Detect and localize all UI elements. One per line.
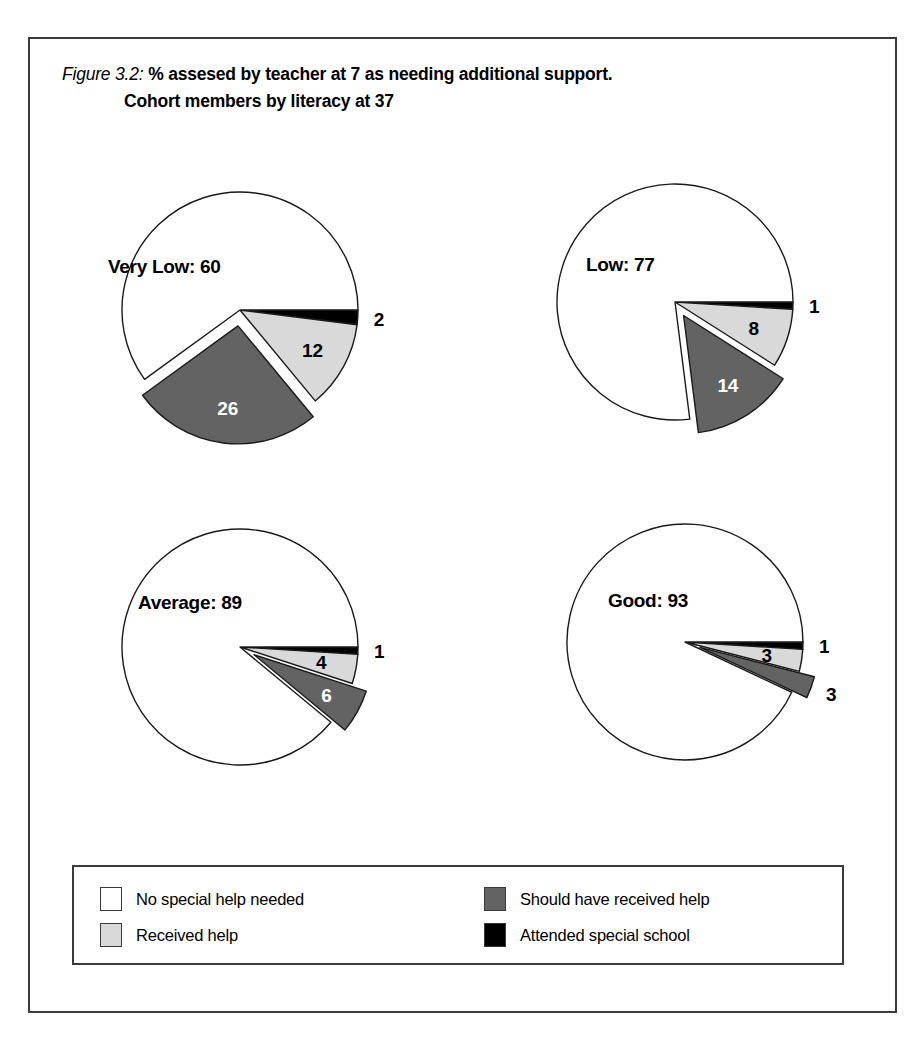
legend-swatch-special-school (484, 923, 506, 947)
legend-item-should-have-received-help: Should have received help (484, 881, 709, 917)
legend-column-left: No special help neededReceived help (100, 881, 304, 953)
slice-value-label: 3 (761, 645, 771, 666)
pie-chart-low: 1814 (487, 114, 863, 490)
slice-value-label: 1 (819, 636, 830, 657)
legend-label: Attended special school (520, 926, 690, 945)
slice-value-label: 6 (321, 685, 331, 706)
slice-value-label: 12 (302, 340, 323, 361)
legend-label: Received help (136, 926, 238, 945)
legend-item-special-school: Attended special school (484, 917, 709, 953)
pie-slice-no-special-help-needed (122, 529, 358, 765)
slice-value-label: 4 (316, 652, 327, 673)
pie-svg: 1814 (487, 114, 863, 490)
pie-slice-no-special-help-needed (567, 524, 803, 760)
legend-swatch-no-help (100, 887, 122, 911)
legend-label: No special help needed (136, 890, 304, 909)
pie-center-label-good: Good: 93 (608, 590, 688, 612)
legend-swatch-received-help (100, 923, 122, 947)
pie-svg: 146 (52, 459, 428, 835)
pie-chart-average: 146 (52, 459, 428, 835)
pie-chart-very-low: 21226 (52, 122, 428, 498)
pie-svg: 133 (497, 454, 873, 830)
pie-svg: 21226 (52, 122, 428, 498)
slice-value-label: 8 (748, 318, 758, 339)
legend-item-received-help: Received help (100, 917, 304, 953)
slice-value-label: 26 (217, 398, 238, 419)
pie-center-label-average: Average: 89 (138, 592, 242, 614)
pie-charts-area: 21226Very Low: 601814Low: 77146Average: … (30, 39, 899, 849)
figure-frame: Figure 3.2: % assesed by teacher at 7 as… (28, 37, 897, 1013)
pie-chart-good: 133 (497, 454, 873, 830)
chart-legend: No special help neededReceived help Shou… (72, 865, 844, 965)
slice-value-label: 1 (374, 641, 385, 662)
legend-label: Should have received help (520, 890, 709, 909)
slice-value-label: 1 (809, 296, 820, 317)
legend-column-right: Should have received helpAttended specia… (484, 881, 709, 953)
legend-item-no-help: No special help needed (100, 881, 304, 917)
slice-value-label: 3 (826, 684, 836, 705)
slice-value-label: 14 (718, 375, 739, 396)
pie-center-label-very-low: Very Low: 60 (108, 256, 221, 278)
pie-center-label-low: Low: 77 (586, 254, 655, 276)
slice-value-label: 2 (374, 309, 384, 330)
legend-swatch-should-have-received-help (484, 887, 506, 911)
